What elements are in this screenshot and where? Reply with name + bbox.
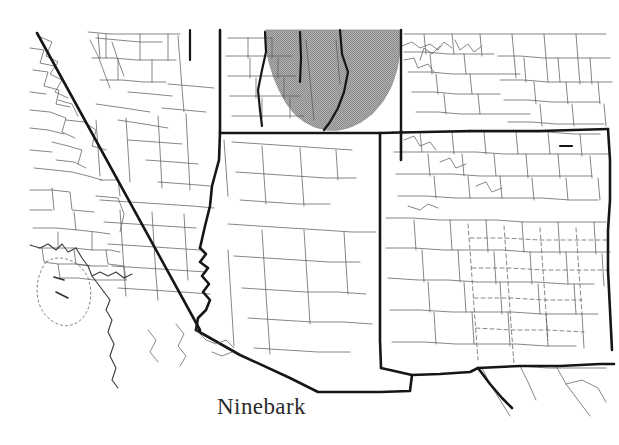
range-map-figure: Ninebark (0, 0, 619, 445)
map-graphic (0, 0, 619, 445)
figure-caption: Ninebark (0, 392, 619, 422)
